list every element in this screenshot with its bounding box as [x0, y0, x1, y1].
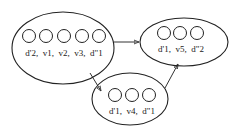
slot-circle [93, 30, 106, 43]
slot-circle [40, 30, 53, 43]
node-b-label: d'1, v5, d"2 [158, 44, 204, 54]
edge-c-to-b [165, 64, 178, 88]
slot-circle [109, 89, 122, 102]
slot-circle [143, 89, 156, 102]
slot-circle [126, 89, 139, 102]
node-c-label: d'1, v4, d"1 [109, 106, 155, 116]
slot-circle [23, 30, 36, 43]
slot-circle [191, 27, 204, 40]
node-c: d'1, v4, d"1 [92, 73, 168, 125]
slot-circle [76, 30, 89, 43]
slot-circle [158, 27, 171, 40]
slot-circle [174, 27, 187, 40]
slot-circle [58, 30, 71, 43]
node-a: d'2, v1, v2, v3, d"1 [12, 12, 114, 84]
diagram-canvas: d'2, v1, v2, v3, d"1 d'1, v5, d"2 d'1, v… [0, 0, 234, 129]
node-a-label: d'2, v1, v2, v3, d"1 [25, 48, 102, 58]
node-b: d'1, v5, d"2 [140, 18, 228, 66]
